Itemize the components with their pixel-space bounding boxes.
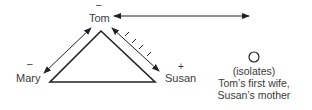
isolates-caption: (isolates) Tom’s first wife, Susan’s mot…	[214, 65, 294, 101]
isolates-title: (isolates)	[214, 65, 294, 77]
susan-sign: +	[178, 61, 184, 72]
mary-sign: –	[27, 58, 33, 69]
tom-sign: –	[96, 0, 102, 10]
tom-mary-arrow	[44, 28, 91, 73]
isolates-line1: Tom’s first wife,	[214, 77, 294, 89]
susan-label: Susan	[165, 72, 196, 84]
isolates-line2: Susan’s mother	[214, 89, 294, 101]
mary-label: Mary	[16, 72, 40, 84]
isolate-node-icon	[249, 52, 259, 62]
triangle-shape	[50, 31, 155, 82]
tom-label: Tom	[89, 12, 110, 24]
